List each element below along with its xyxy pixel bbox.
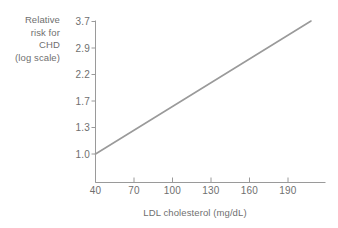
x-tick-label: 190 [268,186,308,196]
x-tick-label: 100 [153,186,193,196]
x-tick-label: 40 [76,186,116,196]
x-tick-label: 70 [114,186,154,196]
x-tick-label: 160 [230,186,270,196]
x-axis-tick-labels: 40 70 100 130 160 190 [0,0,338,228]
x-tick-label: 130 [191,186,231,196]
x-axis-title: LDL cholesterol (mg/dL) [60,207,330,218]
chart-container: Relative risk for CHD (log scale) 3.7 2.… [0,0,338,228]
